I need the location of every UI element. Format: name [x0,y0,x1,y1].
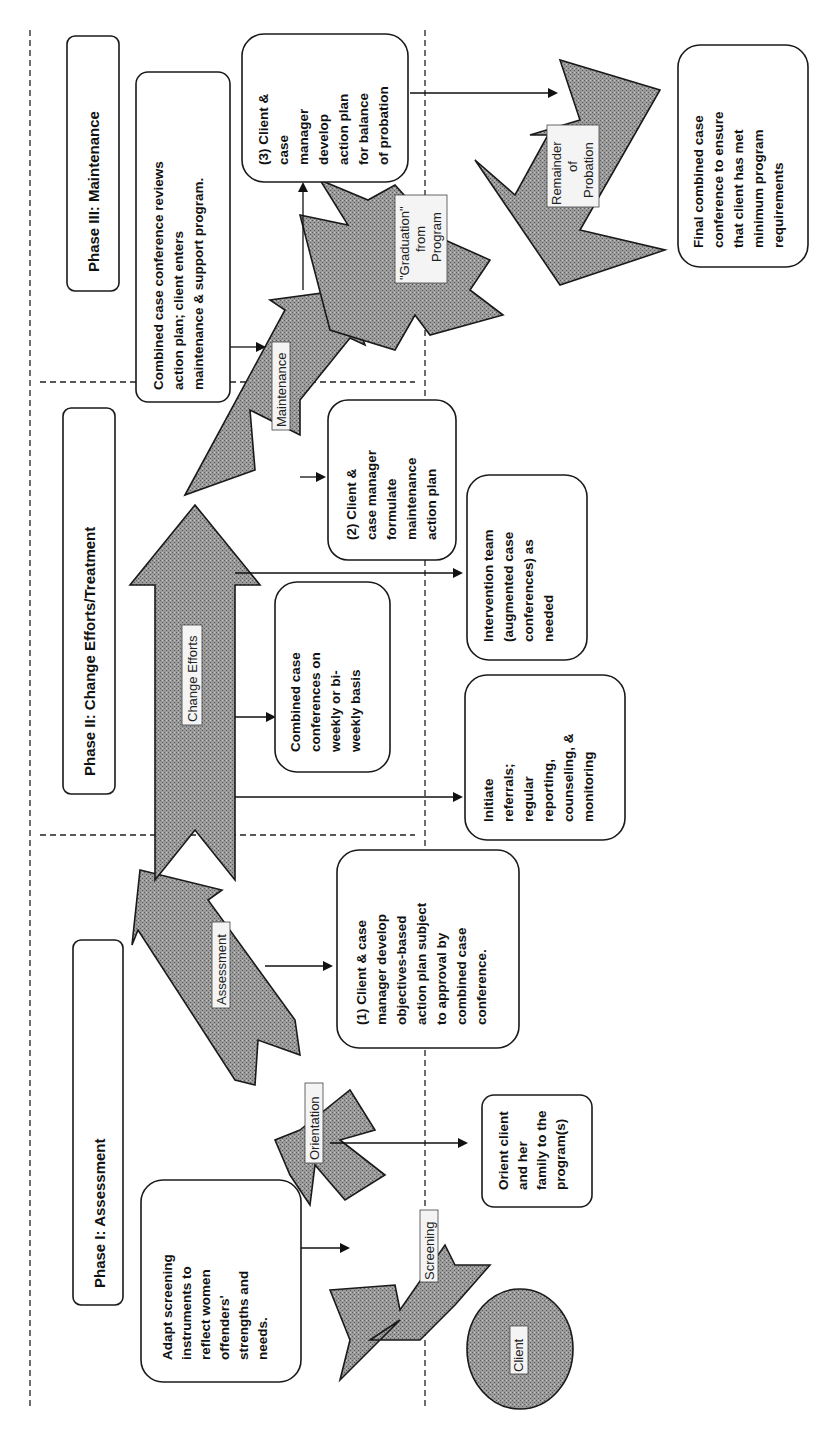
box-text-line: for balance [356,92,371,165]
box-text-line: reporting, [541,759,556,822]
box-text-line: Orient client [496,1111,511,1190]
orient-client-box: Orient client and her family to the prog… [482,1095,592,1207]
box-text-line: family to the [534,1110,549,1190]
box-text-line: maintenance & support program. [191,178,206,390]
box-text-line: action plan; client enters [171,231,186,390]
box-text-line: combined case [454,927,469,1025]
box-text-line: regular [521,775,536,822]
arrowhead-icon [453,568,463,578]
box-text-line: instruments to [179,1266,194,1360]
intervention-team-box: Intervention team (augmented case confer… [467,475,587,660]
box-text-line: action plan [336,94,351,165]
arrowhead-icon [298,182,308,192]
arrowhead-icon [453,792,463,802]
box-text-line: needed [541,595,556,642]
box-text-line: counseling, & [561,733,576,822]
phase-label-maintenance: Phase III: Maintenance [85,111,102,272]
box-text-line: Combined case conference reviews [151,161,166,390]
box-text-line: conferences) as [521,539,536,642]
orientation-label: Orientation [307,1096,322,1160]
box-text-line: that client has met [731,129,746,248]
remainder-label-line-1: Remainder [549,141,564,205]
arrowhead-icon [316,472,326,482]
graduation-label-line-3: Program [429,212,444,262]
screening-arrow [330,1245,490,1380]
box-text-line: referrals; [501,763,516,822]
box-text-line: offenders' [217,1295,232,1360]
box-text-line: objectives-based [394,915,409,1025]
screening-stage: Screening [420,1210,438,1282]
arrowhead-icon [340,1243,350,1253]
box-text-line: strengths and [236,1271,251,1360]
arrowhead-icon [548,88,558,98]
change-efforts-label: Change Efforts [185,635,200,722]
remainder-stage: Remainder of Probation [547,125,599,207]
initiate-referrals-box: Initiate referrals; regular reporting, c… [465,675,625,840]
phase-box-assessment: Phase I: Assessment [73,940,123,1305]
box-text-line: needs. [255,1317,270,1360]
box-text-line: action plan subject [414,902,429,1025]
box-text-line: Combined case [288,652,303,752]
box-text-line: conference. [474,949,489,1025]
box-text-line: conference to ensure [711,111,726,248]
action-plan-1-box: (1) Client & case manager develop object… [337,850,519,1048]
maintenance-stage: Maintenance [272,342,290,430]
assessment-label: Assessment [214,934,229,1005]
arrowhead-icon [323,961,333,971]
client-node: Client [467,1289,573,1409]
box-text-line: Adapt screening [160,1254,175,1360]
box-text-line: (augmented case [501,531,516,642]
box-text-line: case [276,134,291,165]
box-text-line: action plan [424,469,439,540]
assessment-stage: Assessment [212,922,230,1008]
box-text-line: Initiate [481,778,496,822]
box-text-line: reflect women [198,1269,213,1360]
box-text-line: minimum program [751,129,766,248]
maintenance-label: Maintenance [274,353,289,427]
combined-weekly-box: Combined case conferences on weekly or b… [275,582,390,772]
action-plan-2-box: (2) Client & case manager formulate main… [328,400,456,560]
box-text-line: program(s) [553,1119,568,1190]
phase-box-change-efforts: Phase II: Change Efforts/Treatment [63,408,115,794]
change-efforts-stage: Change Efforts [182,625,202,725]
orientation-stage: Orientation [305,1083,323,1163]
box-text-line: (2) Client & [344,468,359,540]
phase-diagram: Phase I: Assessment Phase II: Change Eff… [0,0,832,1452]
box-text-line: manager develop [374,914,389,1025]
final-conference-box: Final combined case conference to ensure… [678,45,808,267]
box-text-line: of probation [376,86,391,165]
graduation-stage: "Graduation" from Program [395,195,447,283]
box-text-line: weekly or bi- [328,670,343,753]
graduation-label-line-1: "Graduation" [397,206,412,280]
box-text-line: weekly basis [348,669,363,753]
box-text-line: case manager [364,449,379,540]
phase-label-change-efforts: Phase II: Change Efforts/Treatment [81,527,98,776]
remainder-label-line-3: Probation [581,142,596,198]
combined-review-box: Combined case conference reviews action … [136,72,230,402]
graduation-label-line-2: from [413,226,428,252]
box-text-line: monitoring [581,752,596,823]
phase-label-assessment: Phase I: Assessment [91,1138,108,1288]
box-text-line: conferences on [308,652,323,752]
phase-box-maintenance: Phase III: Maintenance [67,36,119,291]
box-text-line: manager [296,108,311,165]
adapt-screening-box: Adapt screening instruments to reflect w… [141,1180,301,1382]
box-text-line: to approval by [434,932,449,1025]
client-label: Client [511,1338,526,1372]
box-text-line: maintenance [404,457,419,540]
box-text-line: (3) Client & [256,93,271,165]
box-text-line: requirements [771,162,786,248]
action-plan-3-box: (3) Client & case manager develop action… [242,34,408,182]
box-text-line: develop [316,114,331,165]
remainder-label-line-2: of [565,161,580,172]
arrowhead-icon [458,1138,468,1148]
box-text-line: and her [515,1140,530,1190]
box-text-line: (1) Client & case [354,919,369,1025]
box-text-line: Intervention team [481,529,496,642]
box-text-line: Final combined case [691,115,706,248]
box-text-line: formulate [384,478,399,540]
screening-label: Screening [422,1221,437,1280]
